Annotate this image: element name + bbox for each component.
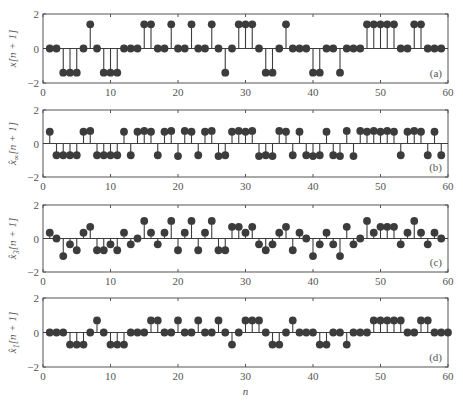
stem-marker: [154, 45, 162, 53]
stem-marker: [370, 317, 378, 325]
stem-marker: [431, 45, 439, 53]
stem-marker: [356, 235, 364, 243]
stem-marker: [424, 151, 432, 159]
stem-marker: [100, 151, 108, 159]
stem-marker: [53, 45, 61, 53]
stem-marker: [269, 341, 277, 349]
stem-marker: [161, 229, 169, 237]
stem-marker: [262, 329, 270, 337]
stem-marker: [404, 229, 412, 237]
stem-marker: [147, 128, 155, 136]
y-tick-label: 0: [34, 43, 40, 55]
stem-marker: [127, 329, 135, 337]
stem-marker: [329, 45, 337, 53]
stem-marker: [235, 329, 243, 337]
stem-marker: [329, 240, 337, 248]
stem-marker: [127, 151, 135, 159]
x-tick-label: 0: [40, 180, 46, 192]
stem-marker: [343, 341, 351, 349]
stem-marker: [343, 45, 351, 53]
stem-marker: [46, 329, 54, 337]
stem-marker: [86, 223, 94, 231]
subplot-a: 0102030405060−202(a)x[n + 1]: [6, 8, 454, 98]
stem-marker: [80, 128, 88, 136]
subplot-b: 0102030405060−202(b)x̂∞[n + 1]: [6, 104, 454, 192]
stem-marker: [296, 128, 304, 136]
stem-marker: [336, 152, 344, 160]
stem-marker: [107, 69, 115, 77]
stem-marker: [269, 69, 277, 77]
stem-marker: [424, 240, 432, 248]
stem-marker: [323, 128, 331, 136]
stem-marker: [134, 45, 142, 53]
stem-marker: [113, 151, 121, 159]
stem-marker: [235, 127, 243, 135]
stem-marker: [296, 45, 304, 53]
y-tick-label: 2: [34, 199, 40, 211]
stem-marker: [86, 20, 94, 28]
stem-marker: [397, 240, 405, 248]
stem-marker: [410, 20, 418, 28]
stem-marker: [282, 128, 290, 136]
stem-marker: [343, 223, 351, 231]
y-axis-label: x̂∞[n + 1]: [6, 122, 21, 166]
stem-marker: [100, 329, 108, 337]
stem-marker: [174, 317, 182, 325]
stem-marker: [154, 151, 162, 159]
y-tick-label: 2: [34, 8, 40, 20]
stem-marker: [100, 246, 108, 254]
stem-marker: [154, 317, 162, 325]
stem-marker: [113, 246, 121, 254]
stem-marker: [221, 69, 229, 77]
stem-marker: [201, 45, 209, 53]
stem-marker: [289, 246, 297, 254]
stem-marker: [174, 152, 182, 160]
stem-marker: [235, 20, 243, 28]
x-tick-label: 20: [173, 370, 185, 382]
x-tick-label: 50: [375, 370, 387, 382]
stem-marker: [275, 45, 283, 53]
stem-marker: [167, 329, 175, 337]
stem-marker: [410, 217, 418, 225]
x-tick-label: 40: [308, 180, 320, 192]
stem-marker: [431, 128, 439, 136]
stem-marker: [194, 246, 202, 254]
stem-marker: [201, 229, 209, 237]
stem-marker: [397, 45, 405, 53]
stem-marker: [120, 45, 128, 53]
x-tick-label: 30: [240, 180, 252, 192]
stem-marker: [377, 223, 385, 231]
y-tick-label: 0: [34, 233, 40, 245]
stem-marker: [383, 20, 391, 28]
stem-marker: [248, 20, 256, 28]
stem-marker: [296, 329, 304, 337]
stem-marker: [228, 341, 236, 349]
x-tick-label: 40: [308, 370, 320, 382]
stem-marker: [46, 128, 54, 136]
stem-marker: [397, 151, 405, 159]
stem-marker: [215, 152, 223, 160]
stem-marker: [390, 223, 398, 231]
stem-marker: [417, 317, 425, 325]
stem-marker: [363, 329, 371, 337]
stem-marker: [73, 341, 81, 349]
stem-marker: [417, 20, 425, 28]
x-tick-label: 20: [173, 86, 185, 98]
stem-marker: [174, 246, 182, 254]
stem-marker: [350, 329, 358, 337]
stem-marker: [80, 341, 88, 349]
y-axis-label: x̂1[n + 1]: [6, 312, 21, 354]
stem-marker: [228, 45, 236, 53]
y-tick-label: −2: [27, 266, 39, 278]
x-tick-label: 0: [40, 370, 46, 382]
stem-marker: [397, 317, 405, 325]
stem-marker: [167, 127, 175, 135]
stem-marker: [194, 45, 202, 53]
stem-marker: [356, 45, 364, 53]
stem-marker: [350, 152, 358, 160]
stem-marker: [167, 217, 175, 225]
stem-marker: [323, 229, 331, 237]
stem-marker: [424, 317, 432, 325]
stem-marker: [147, 317, 155, 325]
x-tick-label: 50: [375, 180, 387, 192]
